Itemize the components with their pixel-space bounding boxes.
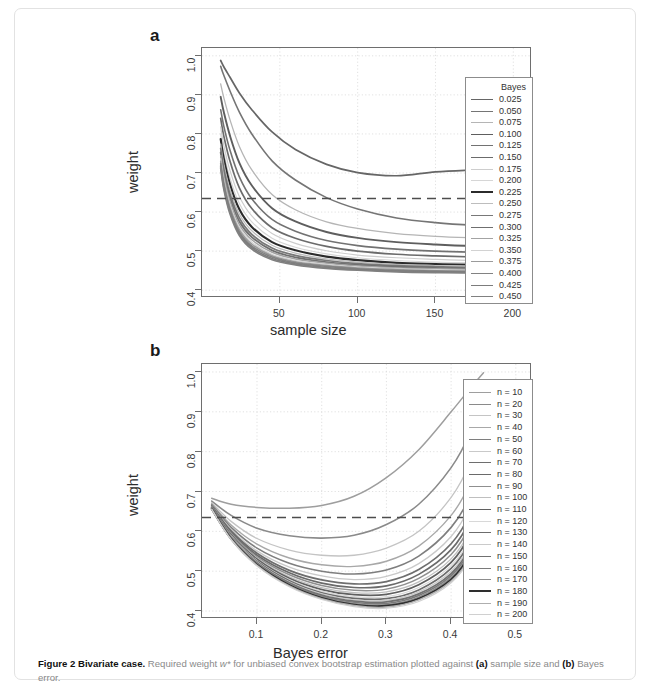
x-tick-mark <box>357 297 358 303</box>
legend-color-swatch <box>471 203 493 204</box>
legend-item-label: 0.125 <box>499 140 522 151</box>
legend-item: 0.225 <box>471 187 522 198</box>
panel-a-y-axis-title: weight <box>125 142 141 202</box>
y-tick-label: 0.4 <box>185 289 197 309</box>
legend-item: n = 90 <box>469 481 522 492</box>
panel-b-y-axis-title: weight <box>125 465 141 525</box>
legend-item-label: 0.450 <box>499 291 522 302</box>
legend-item-label: 0.025 <box>499 94 522 105</box>
caption-text-1: Required weight <box>145 658 220 669</box>
caption-symbol-w: w* <box>220 658 231 669</box>
legend-item-label: n = 60 <box>497 446 522 457</box>
legend-color-swatch <box>469 497 491 498</box>
legend-color-swatch <box>469 451 491 452</box>
y-tick-label: 0.5 <box>185 250 197 270</box>
legend-color-swatch <box>469 427 491 428</box>
legend-color-swatch <box>469 509 491 510</box>
legend-item-label: n = 20 <box>497 399 522 410</box>
legend-item: n = 10 <box>469 387 522 398</box>
panel-a-legend-title: Bayes <box>501 82 526 92</box>
legend-item: 0.250 <box>471 198 522 209</box>
legend-item: 0.050 <box>471 106 522 117</box>
legend-item-label: n = 160 <box>497 563 527 574</box>
legend-color-swatch <box>469 532 491 533</box>
legend-item: 0.200 <box>471 175 522 186</box>
legend-color-swatch <box>471 273 493 274</box>
legend-item-label: n = 130 <box>497 527 527 538</box>
legend-color-swatch <box>471 296 493 297</box>
y-tick-label: 0.4 <box>185 610 197 630</box>
legend-item-label: 0.400 <box>499 268 522 279</box>
y-tick-label: 1.0 <box>185 55 197 75</box>
legend-item-label: n = 150 <box>497 551 527 562</box>
y-tick-label: 0.6 <box>185 530 197 550</box>
legend-color-swatch <box>471 157 493 158</box>
legend-item: 0.325 <box>471 233 522 244</box>
legend-color-swatch <box>471 250 493 251</box>
legend-item: n = 70 <box>469 457 522 468</box>
legend-item-label: 0.175 <box>499 164 522 175</box>
figure-caption: Figure 2 Bivariate case. Required weight… <box>38 657 618 685</box>
legend-item: 0.150 <box>471 152 522 163</box>
legend-item: 0.125 <box>471 140 522 151</box>
x-tick-mark <box>256 618 257 624</box>
legend-item-label: n = 30 <box>497 410 522 421</box>
legend-color-swatch <box>471 111 493 112</box>
x-tick-label: 150 <box>414 307 454 319</box>
legend-item-label: 0.275 <box>499 210 522 221</box>
legend-item-label: n = 200 <box>497 609 527 620</box>
legend-item: n = 170 <box>469 574 527 585</box>
legend-color-swatch <box>469 404 491 405</box>
legend-item-label: 0.375 <box>499 256 522 267</box>
panel-a: a weight sample size 501001502000.40.50.… <box>15 9 637 329</box>
y-tick-label: 0.7 <box>185 172 197 192</box>
legend-item-label: n = 190 <box>497 598 527 609</box>
legend-color-swatch <box>469 486 491 487</box>
legend-color-swatch <box>469 568 491 569</box>
y-tick-label: 0.9 <box>185 94 197 114</box>
y-tick-label: 0.5 <box>185 570 197 590</box>
legend-item-label: 0.425 <box>499 280 522 291</box>
y-tick-label: 1.0 <box>185 371 197 391</box>
x-tick-label: 50 <box>259 307 299 319</box>
y-tick-label: 0.9 <box>185 411 197 431</box>
legend-item: n = 120 <box>469 516 527 527</box>
legend-item-label: 0.150 <box>499 152 522 163</box>
x-tick-mark <box>450 618 451 624</box>
legend-item-label: 0.200 <box>499 175 522 186</box>
x-tick-label: 0.4 <box>430 628 470 640</box>
legend-item: 0.300 <box>471 222 522 233</box>
y-tick-label: 0.7 <box>185 491 197 511</box>
legend-item: n = 60 <box>469 446 522 457</box>
legend-color-swatch <box>471 191 493 193</box>
x-tick-label: 0.5 <box>495 628 535 640</box>
legend-item: 0.075 <box>471 117 522 128</box>
legend-color-swatch <box>469 521 491 522</box>
legend-color-swatch <box>469 439 491 440</box>
legend-item: 0.400 <box>471 268 522 279</box>
legend-item: n = 100 <box>469 492 527 503</box>
legend-item-label: n = 120 <box>497 516 527 527</box>
x-tick-mark <box>279 297 280 303</box>
legend-item: n = 140 <box>469 539 527 550</box>
legend-item-label: n = 170 <box>497 574 527 585</box>
x-tick-label: 0.1 <box>236 628 276 640</box>
legend-item-label: n = 40 <box>497 422 522 433</box>
legend-item: n = 110 <box>469 504 527 515</box>
figure-container: a weight sample size 501001502000.40.50.… <box>14 8 636 680</box>
legend-item-label: 0.250 <box>499 198 522 209</box>
legend-color-swatch <box>471 227 493 228</box>
legend-color-swatch <box>469 579 491 580</box>
legend-item-label: 0.300 <box>499 222 522 233</box>
x-tick-mark <box>321 618 322 624</box>
legend-item: n = 40 <box>469 422 522 433</box>
legend-item-label: 0.100 <box>499 129 522 140</box>
legend-color-swatch <box>469 603 491 604</box>
legend-item-label: n = 100 <box>497 492 527 503</box>
legend-item: 0.025 <box>471 94 522 105</box>
legend-color-swatch <box>469 462 491 463</box>
legend-item-label: n = 10 <box>497 387 522 398</box>
legend-item-label: 0.050 <box>499 106 522 117</box>
legend-color-swatch <box>471 215 493 216</box>
legend-color-swatch <box>471 145 493 146</box>
